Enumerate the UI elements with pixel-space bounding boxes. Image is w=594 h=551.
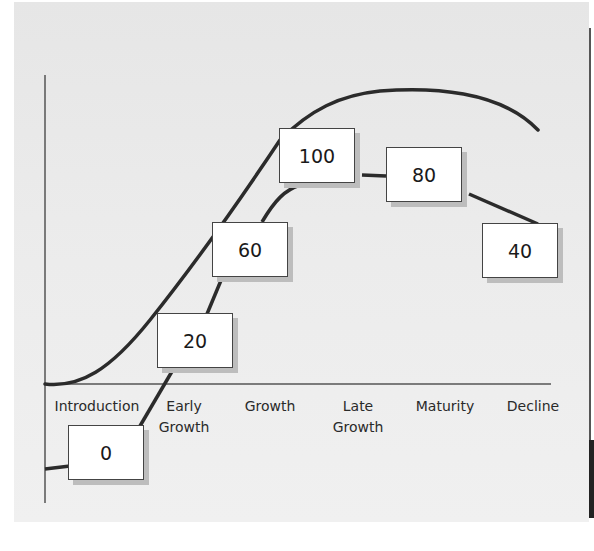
value-label: 60 xyxy=(238,239,262,261)
profit-curve-segment xyxy=(207,278,222,314)
stage-label-early-growth: Early Growth xyxy=(147,396,221,438)
value-box-growth: 60 xyxy=(212,222,288,277)
profit-curve xyxy=(45,466,70,469)
stage-label-introduction: Introduction xyxy=(47,396,147,417)
stage-label-decline: Decline xyxy=(495,396,571,417)
value-label: 0 xyxy=(100,442,112,464)
value-box-early-growth: 20 xyxy=(157,313,233,368)
value-label: 100 xyxy=(299,145,335,167)
profit-curve-segment xyxy=(262,185,300,222)
profit-curve-segment xyxy=(362,175,386,176)
profit-curve-segment xyxy=(469,194,538,224)
stage-label-maturity: Maturity xyxy=(405,396,485,417)
value-label: 80 xyxy=(412,164,436,186)
stage-label-late-growth: Late Growth xyxy=(320,396,396,438)
value-box-decline: 40 xyxy=(482,223,558,278)
value-box-introduction: 0 xyxy=(68,425,144,480)
value-label: 20 xyxy=(183,330,207,352)
value-label: 40 xyxy=(508,240,532,262)
stage-label-growth: Growth xyxy=(232,396,308,417)
value-box-late-growth: 100 xyxy=(279,128,355,183)
value-box-maturity: 80 xyxy=(386,147,462,202)
